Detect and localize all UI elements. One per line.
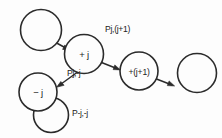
- node-minus-j[interactable]: − j: [19, 73, 57, 111]
- node-label-plus-j: + j: [79, 49, 89, 60]
- edge-label-p-j-jplus1: Pj,(j+1): [105, 24, 130, 34]
- node-label-minus-j: − j: [33, 87, 43, 98]
- node-next-state[interactable]: [178, 54, 217, 93]
- edge-label-p-minusj-minusj: P-j,-j: [72, 108, 88, 118]
- node-circle[interactable]: [178, 54, 217, 93]
- state-transition-diagram: + j +(j+1) − j Pj,(j+1) Pj,-j P-j,-j: [0, 0, 222, 138]
- edge-plus-j-plus-1-to-next: [157, 79, 175, 86]
- node-label-plus-j-plus-1: +(j+1): [128, 67, 150, 77]
- edge-label-p-j-minusj: Pj,-j: [67, 68, 81, 78]
- diagram-canvas: + j +(j+1) − j Pj,(j+1) Pj,-j P-j,-j: [0, 0, 222, 138]
- edge-plus-j-to-plus-j-plus-1: [102, 63, 121, 70]
- node-plus-j-plus-1[interactable]: +(j+1): [120, 52, 158, 90]
- node-previous-state[interactable]: [21, 10, 62, 51]
- node-circle[interactable]: [21, 10, 62, 51]
- arrow-head-icon: [167, 81, 174, 86]
